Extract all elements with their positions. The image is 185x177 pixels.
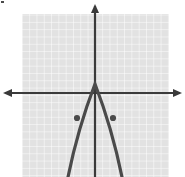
corner-speck-artifact — [1, 1, 4, 3]
marked-point-right — [110, 115, 116, 121]
marked-point-left — [74, 115, 80, 121]
arrow-up-icon — [91, 4, 99, 13]
parabola-figure — [0, 0, 185, 177]
graph-canvas — [0, 0, 185, 177]
arrow-left-icon — [3, 89, 12, 97]
arrow-right-icon — [173, 89, 182, 97]
